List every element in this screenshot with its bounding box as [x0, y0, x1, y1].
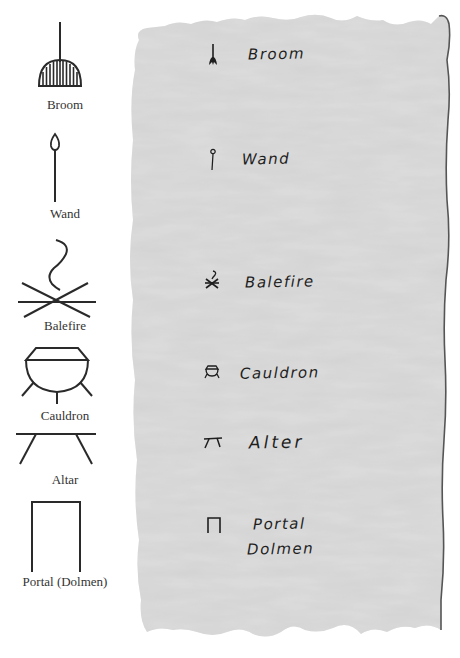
balefire-icon	[18, 238, 96, 318]
entry-text-balefire: Balefire	[245, 270, 315, 293]
balefire-glyph-icon	[204, 270, 220, 290]
torn-paper-note: Broom Wand Balefire Cauldron Alter Porta…	[125, 0, 460, 658]
altar-icon	[16, 432, 96, 466]
entry-text-broom: Broom	[248, 43, 305, 66]
cauldron-glyph-icon	[204, 364, 220, 380]
portal-glyph-icon	[206, 516, 222, 534]
symbol-legend: Broom Wand Balefire Cauldron Altar Porta…	[0, 0, 130, 658]
broom-glyph-icon	[208, 43, 218, 67]
wand-icon	[45, 132, 65, 204]
legend-label-broom: Broom	[0, 97, 130, 113]
entry-text-cauldron: Cauldron	[240, 361, 320, 384]
broom-icon	[34, 20, 86, 88]
legend-label-cauldron: Cauldron	[0, 408, 130, 424]
legend-label-wand: Wand	[0, 206, 130, 222]
entry-text-portal: Portal	[253, 513, 306, 536]
entry-text-wand: Wand	[242, 148, 291, 171]
legend-label-portal-dolmen: Portal (Dolmen)	[0, 574, 130, 590]
altar-glyph-icon	[203, 436, 223, 450]
entry-text-dolmen: Dolmen	[247, 537, 315, 560]
portal-dolmen-icon	[30, 500, 82, 572]
wand-glyph-icon	[208, 148, 218, 172]
entry-text-altar: Alter	[249, 431, 305, 454]
cauldron-icon	[20, 346, 94, 406]
legend-label-altar: Altar	[0, 472, 130, 488]
legend-label-balefire: Balefire	[0, 318, 130, 334]
